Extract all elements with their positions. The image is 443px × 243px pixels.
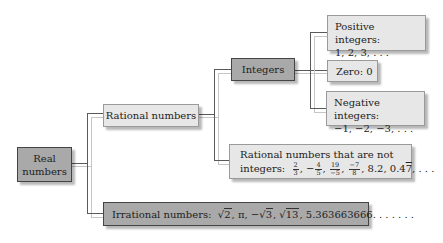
node-real-label-line2: numbers <box>22 165 67 178</box>
sqrt-2: √2 <box>218 208 232 221</box>
connector-to-irrational <box>87 213 103 214</box>
fraction-1: 23 <box>293 162 299 177</box>
node-negative-label: Negative integers: <box>334 96 417 122</box>
fraction-3: 19−5 <box>330 162 340 177</box>
node-positive-integers: Positive integers: 1, 2, 3, . . . <box>327 15 426 51</box>
connector-to-integers <box>214 69 231 70</box>
ellipsis: . . . <box>418 163 434 174</box>
node-negative-examples: −1, −2, −3, . . . <box>334 122 417 135</box>
connector-rational-vertical <box>214 69 215 161</box>
connector-integers-vertical-shadow <box>314 36 315 113</box>
connector-real-trunk <box>72 163 87 164</box>
connector-real-trunk-shadow <box>72 166 91 167</box>
connector-to-negative <box>310 108 326 109</box>
connector-real-vertical-shadow <box>91 117 92 217</box>
neg-sqrt-3: −√3 <box>251 208 273 221</box>
node-real-label-line1: Real <box>33 152 56 165</box>
node-non-integer-examples: integers: 23, −45, 19−5, −78, 8.2, 0.47,… <box>240 161 401 177</box>
connector-rational-trunk-shadow <box>199 117 218 118</box>
node-real-numbers: Real numbers <box>17 147 72 182</box>
node-positive-examples: 1, 2, 3, . . . <box>335 46 418 59</box>
decimal-8-2: 8.2 <box>368 163 384 174</box>
connector-to-irrational-shadow <box>91 217 103 218</box>
node-non-integer-rationals: Rational numbers that are not integers: … <box>229 144 412 179</box>
node-negative-integers: Negative integers: −1, −2, −3, . . . <box>326 91 425 126</box>
connector-integers-trunk <box>295 70 327 71</box>
pi-symbol: π <box>238 208 245 221</box>
node-zero-label: Zero: 0 <box>336 65 373 78</box>
fraction-2-sign: − <box>306 163 314 174</box>
connector-to-positive <box>310 32 327 33</box>
fraction-4: −78 <box>349 162 361 177</box>
node-rational-label: Rational numbers <box>106 109 196 122</box>
connector-real-vertical <box>87 113 88 213</box>
node-irrational-numbers: Irrational numbers: √2, π, −√3, √13, 5.3… <box>103 202 369 226</box>
connector-to-integers-shadow <box>218 73 231 74</box>
fraction-2: 45 <box>315 162 321 177</box>
connector-to-non-integer <box>214 160 229 161</box>
node-rational-numbers: Rational numbers <box>103 104 199 127</box>
node-positive-label: Positive integers: <box>335 20 418 46</box>
connector-integers-vertical <box>310 32 311 109</box>
connector-to-positive-shadow <box>314 36 327 37</box>
repeating-decimal: 0.47 <box>390 163 412 174</box>
connector-integers-trunk-shadow <box>295 73 327 74</box>
node-zero: Zero: 0 <box>327 60 378 82</box>
connector-rational-trunk <box>199 114 214 115</box>
node-irrational-label: Irrational numbers: <box>112 208 211 221</box>
connector-to-negative-shadow <box>314 112 326 113</box>
connector-rational-vertical-shadow <box>218 73 219 165</box>
node-non-integer-label-line1: Rational numbers that are not <box>240 148 401 161</box>
connector-to-rational <box>87 113 103 114</box>
sqrt-13: √13 <box>279 208 299 221</box>
irrational-decimal: 5.363663666. . . . . . . <box>306 208 414 221</box>
connector-to-non-integer-shadow <box>218 164 229 165</box>
node-integers-label: Integers <box>242 63 285 76</box>
node-non-integer-label-prefix: integers: <box>240 163 285 174</box>
node-integers: Integers <box>231 58 295 81</box>
connector-to-rational-shadow <box>91 117 103 118</box>
